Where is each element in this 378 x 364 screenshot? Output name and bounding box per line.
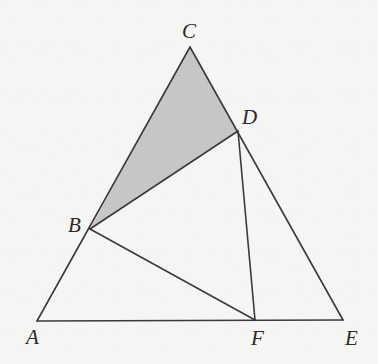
vertex-label-B: B	[68, 213, 81, 237]
segment-A-C	[37, 47, 190, 321]
shaded-region-triangle-BCD	[90, 47, 238, 229]
vertex-label-A: A	[24, 325, 39, 349]
segment-C-E	[190, 47, 343, 320]
segment-A-E	[37, 320, 343, 321]
segment-B-F	[90, 229, 255, 320]
vertex-label-D: D	[241, 105, 257, 129]
vertex-label-C: C	[182, 19, 197, 43]
vertex-label-F: F	[250, 326, 264, 350]
vertex-label-E: E	[344, 326, 358, 350]
geometry-figure: A B C D E F	[0, 0, 378, 364]
figure-canvas: A B C D E F	[0, 0, 378, 364]
